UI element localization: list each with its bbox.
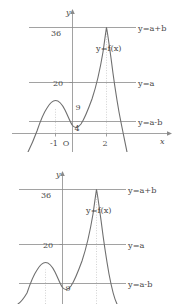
- y-tick-label-9: 9: [65, 284, 70, 293]
- label-y-equals-a-minus-b: y=a-b: [137, 117, 162, 127]
- y-tick-label-9: 9: [75, 103, 80, 112]
- x-tick-label-origin: O: [63, 139, 70, 148]
- x-tick-label-2: 2: [102, 139, 107, 148]
- label-x-axis: x: [160, 137, 165, 146]
- label-y-equals-a-plus-b: y=a+b: [137, 23, 166, 33]
- chart-panel-top: y=a+b y=a y=a-b y=f(x) y x 36 20 9 4 -1 …: [0, 0, 179, 152]
- label-y-equals-a: y=a: [137, 78, 154, 88]
- label-y-equals-a: y=a: [127, 240, 144, 250]
- label-y-axis: y: [55, 170, 61, 179]
- label-y-axis: y: [65, 8, 71, 17]
- label-curve-y-equals-f-x: y=f(x): [85, 205, 112, 215]
- label-y-equals-a-minus-b: y=a-b: [127, 279, 152, 289]
- y-tick-label-20: 20: [53, 79, 63, 88]
- y-axis-arrow-icon: [60, 171, 65, 176]
- y-tick-label-36: 36: [51, 29, 61, 38]
- y-axis-arrow-icon: [70, 9, 75, 14]
- label-y-equals-a-plus-b: y=a+b: [127, 185, 156, 195]
- x-axis-arrow-icon: [167, 131, 172, 136]
- y-tick-label-4: 4: [74, 124, 79, 133]
- chart-panel-bottom: y=a+b y=a y=a-b y=f(x) y 36 20 9: [0, 152, 179, 304]
- label-curve-y-equals-f-x: y=f(x): [95, 43, 122, 53]
- y-tick-label-36: 36: [41, 191, 51, 200]
- x-tick-label-minus-1: -1: [50, 139, 58, 148]
- y-tick-label-20: 20: [43, 241, 53, 250]
